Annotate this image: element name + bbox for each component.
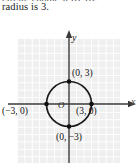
caption-line-2: radius is 3. bbox=[2, 1, 137, 13]
y-axis-label: y bbox=[72, 32, 76, 43]
figure-root: circle; center at (0, 0); radius is 3. y… bbox=[0, 0, 137, 163]
caption-block: circle; center at (0, 0); radius is 3. bbox=[2, 0, 137, 13]
point-label-bottom: (0, −3) bbox=[56, 132, 82, 142]
point-marker-bottom bbox=[67, 124, 72, 129]
point-marker-left bbox=[44, 102, 49, 107]
point-label-top: (0, 3) bbox=[72, 68, 93, 78]
axes-and-curve bbox=[0, 24, 137, 163]
x-axis-label: x bbox=[131, 96, 135, 107]
plot-area: y x O (0, 3) (−3, 0) (3, 0) (0, −3) bbox=[0, 24, 137, 163]
point-marker-top bbox=[67, 79, 72, 84]
point-label-left: (−3, 0) bbox=[2, 106, 28, 116]
origin-label: O bbox=[58, 100, 65, 110]
point-label-right: (3, 0) bbox=[76, 106, 97, 116]
